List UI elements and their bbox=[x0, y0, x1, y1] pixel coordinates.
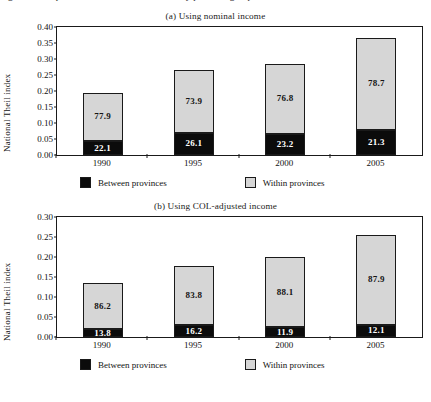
bar-segment-between: 11.9 bbox=[265, 327, 305, 337]
legend-label-between: Between provinces bbox=[98, 178, 167, 188]
bar-segment-between: 16.2 bbox=[174, 325, 214, 337]
bar-value-label: 73.9 bbox=[186, 97, 203, 106]
bar-value-label: 83.8 bbox=[186, 291, 203, 300]
panel-b-y-axis-label: National Theil index bbox=[2, 233, 12, 341]
bar-segment-within: 78.7 bbox=[356, 38, 396, 130]
chart-panel-nominal: (a) Using nominal income National Theil … bbox=[0, 8, 431, 200]
y-tick-label: 0.30 bbox=[17, 54, 57, 64]
y-tick-label: 0.00 bbox=[17, 150, 57, 160]
x-tick-mark bbox=[329, 154, 330, 158]
bar-stack: 76.823.2 bbox=[265, 64, 305, 155]
bar-stack: 88.111.9 bbox=[265, 257, 305, 337]
bar-segment-within: 73.9 bbox=[174, 70, 214, 133]
panel-a-bars: 77.922.173.926.176.823.278.721.3 bbox=[57, 27, 422, 155]
bar-segment-within: 77.9 bbox=[83, 93, 123, 142]
chart-panel-col-adjusted: (b) Using COL-adjusted income National T… bbox=[0, 199, 431, 402]
bar-value-label: 21.3 bbox=[368, 138, 385, 147]
bar-value-label: 88.1 bbox=[277, 288, 294, 297]
bar-segment-between: 13.8 bbox=[83, 329, 123, 337]
x-tick-label: 1990 bbox=[93, 340, 111, 350]
figure-root: Figure Decomposition of national Theil i… bbox=[0, 0, 431, 402]
panel-a-plot-area: 0.000.050.100.150.200.250.300.350.40 77.… bbox=[56, 26, 423, 156]
bar-segment-between: 23.2 bbox=[265, 134, 305, 155]
bar-value-label: 22.1 bbox=[94, 144, 111, 153]
x-tick-label: 1990 bbox=[93, 158, 111, 168]
y-tick-label: 0.15 bbox=[17, 272, 57, 282]
y-tick-label: 0.05 bbox=[17, 134, 57, 144]
y-tick-label: 0.40 bbox=[17, 22, 57, 32]
legend-swatch-within-icon bbox=[245, 177, 256, 188]
legend-item-between: Between provinces bbox=[80, 177, 167, 188]
bar-stack: 87.912.1 bbox=[356, 235, 396, 337]
bar-segment-within: 88.1 bbox=[265, 257, 305, 327]
y-tick-label: 0.05 bbox=[17, 312, 57, 322]
legend-label-between: Between provinces bbox=[98, 360, 167, 370]
bar-stack: 86.213.8 bbox=[83, 283, 123, 337]
bar-stack: 83.816.2 bbox=[174, 266, 214, 337]
x-tick-mark bbox=[147, 154, 148, 158]
legend-swatch-between-icon bbox=[80, 359, 91, 370]
y-tick-label: 0.35 bbox=[17, 38, 57, 48]
y-tick-label: 0.00 bbox=[17, 332, 57, 342]
y-tick-label: 0.25 bbox=[17, 232, 57, 242]
x-tick-mark bbox=[238, 336, 239, 340]
bar-value-label: 87.9 bbox=[368, 275, 385, 284]
bar-value-label: 76.8 bbox=[277, 94, 294, 103]
legend-label-within: Within provinces bbox=[263, 360, 325, 370]
x-tick-label: 2000 bbox=[275, 158, 293, 168]
bar-segment-within: 76.8 bbox=[265, 64, 305, 134]
x-tick-mark bbox=[56, 154, 57, 158]
y-tick-label: 0.30 bbox=[17, 212, 57, 222]
y-tick-label: 0.25 bbox=[17, 70, 57, 80]
bar-segment-between: 22.1 bbox=[83, 141, 123, 155]
legend-item-between: Between provinces bbox=[80, 359, 167, 370]
x-tick-mark bbox=[147, 336, 148, 340]
x-tick-label: 1995 bbox=[184, 158, 202, 168]
panel-b-plot-area: 0.000.050.100.150.200.250.30 86.213.883.… bbox=[56, 216, 423, 338]
x-tick-label: 1995 bbox=[184, 340, 202, 350]
panel-b-bars: 86.213.883.816.288.111.987.912.1 bbox=[57, 217, 422, 337]
y-tick-label: 0.15 bbox=[17, 102, 57, 112]
panel-a-x-ticks: 1990199520002005 bbox=[56, 158, 423, 172]
x-tick-mark bbox=[56, 336, 57, 340]
y-tick-label: 0.20 bbox=[17, 86, 57, 96]
bar-stack: 77.922.1 bbox=[83, 93, 123, 155]
legend-swatch-within-icon bbox=[245, 359, 256, 370]
legend-label-within: Within provinces bbox=[263, 178, 325, 188]
panel-a-legend: Between provinces Within provinces bbox=[56, 177, 423, 188]
bar-value-label: 13.8 bbox=[94, 329, 111, 338]
bar-stack: 73.926.1 bbox=[174, 70, 214, 155]
bar-value-label: 23.2 bbox=[277, 140, 294, 149]
x-tick-label: 2000 bbox=[275, 340, 293, 350]
figure-caption-partial: Figure Decomposition of national Theil i… bbox=[0, 0, 431, 3]
y-tick-label: 0.10 bbox=[17, 292, 57, 302]
bar-value-label: 16.2 bbox=[186, 327, 203, 336]
bar-value-label: 86.2 bbox=[94, 302, 111, 311]
legend-item-within: Within provinces bbox=[245, 177, 325, 188]
legend-item-within: Within provinces bbox=[245, 359, 325, 370]
panel-a-y-axis-label: National Theil index bbox=[2, 44, 12, 152]
bar-value-label: 11.9 bbox=[277, 328, 293, 337]
panel-a-title: (a) Using nominal income bbox=[0, 11, 431, 21]
bar-segment-between: 26.1 bbox=[174, 133, 214, 155]
x-tick-label: 2005 bbox=[366, 158, 384, 168]
bar-stack: 78.721.3 bbox=[356, 38, 396, 155]
panel-b-x-ticks: 1990199520002005 bbox=[56, 340, 423, 354]
bar-value-label: 77.9 bbox=[94, 112, 111, 121]
bar-segment-between: 21.3 bbox=[356, 130, 396, 155]
bar-value-label: 26.1 bbox=[186, 139, 203, 148]
x-tick-label: 2005 bbox=[366, 340, 384, 350]
bar-segment-within: 86.2 bbox=[83, 283, 123, 329]
y-tick-label: 0.10 bbox=[17, 118, 57, 128]
legend-swatch-between-icon bbox=[80, 177, 91, 188]
y-tick-label: 0.20 bbox=[17, 252, 57, 262]
x-tick-mark bbox=[329, 336, 330, 340]
panel-b-legend: Between provinces Within provinces bbox=[56, 359, 423, 370]
bar-segment-within: 87.9 bbox=[356, 235, 396, 325]
bar-value-label: 12.1 bbox=[368, 326, 385, 335]
x-tick-mark bbox=[238, 154, 239, 158]
bar-value-label: 78.7 bbox=[368, 79, 385, 88]
bar-segment-between: 12.1 bbox=[356, 325, 396, 337]
panel-b-title: (b) Using COL-adjusted income bbox=[0, 201, 431, 211]
bar-segment-within: 83.8 bbox=[174, 266, 214, 325]
